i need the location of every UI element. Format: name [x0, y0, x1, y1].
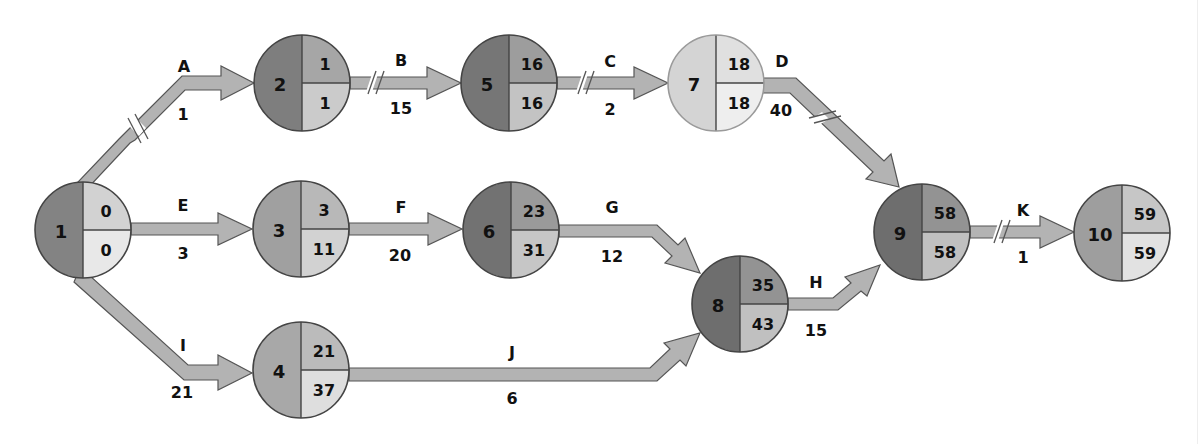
node-latest-time: 43 [752, 315, 774, 334]
event-node-6[interactable]: 62331 [463, 182, 559, 278]
activity-name-H: H [809, 273, 822, 292]
node-number: 1 [55, 221, 68, 242]
node-number: 6 [483, 221, 496, 242]
network-diagram: A 1 B 15 C 2 D 40 E 3 F 20 G 12 H 15 I 2… [0, 0, 1202, 444]
activity-duration-J: 6 [506, 389, 517, 408]
node-latest-time: 58 [934, 243, 956, 262]
node-earliest-time: 35 [752, 276, 774, 295]
activity-duration-I: 21 [171, 383, 193, 402]
node-number: 10 [1087, 224, 1112, 245]
activity-name-K: K [1017, 201, 1030, 220]
arrow-A[interactable] [77, 66, 254, 189]
activity-name-F: F [396, 198, 407, 217]
node-earliest-time: 18 [728, 55, 750, 74]
arrow-C[interactable] [557, 67, 668, 99]
node-number: 5 [481, 74, 494, 95]
node-number: 8 [712, 295, 725, 316]
event-node-7[interactable]: 71818 [668, 35, 764, 131]
node-latest-time: 11 [313, 240, 335, 259]
node-latest-time: 1 [319, 94, 330, 113]
arrow-E[interactable] [131, 213, 252, 245]
node-number: 9 [894, 223, 907, 244]
activity-name-I: I [180, 336, 186, 355]
node-earliest-time: 3 [318, 201, 329, 220]
activity-name-C: C [604, 52, 616, 71]
event-node-4[interactable]: 42137 [253, 322, 349, 418]
arrow-D[interactable] [763, 78, 899, 187]
node-latest-time: 37 [313, 381, 335, 400]
event-node-8[interactable]: 83543 [692, 256, 788, 352]
node-number: 3 [273, 220, 286, 241]
arrow-I[interactable] [74, 274, 252, 390]
node-number: 2 [274, 74, 287, 95]
activity-duration-E: 3 [177, 244, 188, 263]
activity-name-B: B [395, 51, 407, 70]
node-latest-time: 18 [728, 94, 750, 113]
activity-duration-F: 20 [389, 246, 411, 265]
event-node-5[interactable]: 51616 [461, 35, 557, 131]
activity-duration-A: 1 [177, 105, 188, 124]
node-latest-time: 16 [521, 94, 543, 113]
event-node-2[interactable]: 211 [254, 35, 350, 131]
arrow-H[interactable] [788, 265, 880, 310]
activity-duration-K: 1 [1017, 248, 1028, 267]
event-node-9[interactable]: 95858 [874, 184, 970, 280]
node-earliest-time: 21 [313, 342, 335, 361]
arrow-F[interactable] [349, 213, 462, 245]
arrow-J[interactable] [349, 333, 700, 381]
node-earliest-time: 23 [523, 202, 545, 221]
node-earliest-time: 59 [1134, 205, 1156, 224]
node-earliest-time: 58 [934, 204, 956, 223]
node-latest-time: 59 [1134, 244, 1156, 263]
node-number: 4 [273, 361, 286, 382]
arrow-B[interactable] [350, 67, 461, 99]
activity-name-E: E [178, 196, 189, 215]
node-latest-time: 0 [100, 241, 111, 260]
activity-duration-C: 2 [604, 100, 615, 119]
activity-duration-G: 12 [601, 247, 623, 266]
node-number: 7 [688, 74, 701, 95]
activity-name-A: A [178, 57, 191, 76]
node-earliest-time: 1 [319, 55, 330, 74]
event-node-1[interactable]: 100 [35, 182, 131, 278]
node-earliest-time: 0 [100, 202, 111, 221]
event-node-3[interactable]: 3311 [253, 181, 349, 277]
arrow-G[interactable] [559, 225, 700, 273]
activity-name-G: G [605, 198, 618, 217]
node-latest-time: 31 [523, 241, 545, 260]
activity-duration-B: 15 [390, 99, 412, 118]
activity-name-J: J [508, 343, 515, 362]
activity-duration-H: 15 [805, 321, 827, 340]
arrow-K[interactable] [970, 216, 1074, 248]
activity-duration-D: 40 [770, 101, 792, 120]
activity-name-D: D [775, 52, 788, 71]
event-node-10[interactable]: 105959 [1074, 185, 1170, 281]
node-earliest-time: 16 [521, 55, 543, 74]
